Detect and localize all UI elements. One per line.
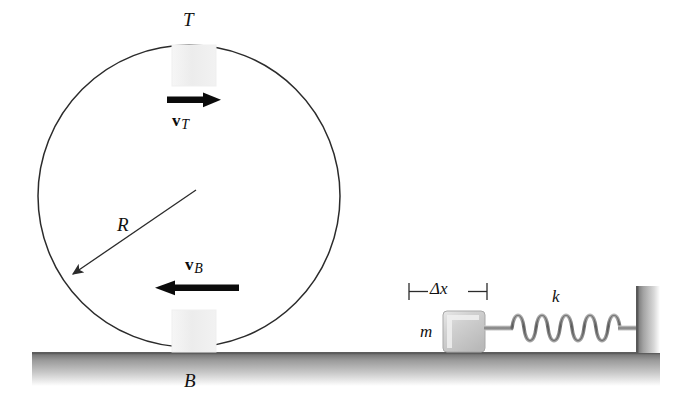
mass-label: m [420, 323, 432, 340]
spring-rod-right [618, 326, 638, 331]
compression-label: Δx [430, 280, 448, 297]
top-velocity-subscript: T [181, 117, 189, 132]
spring-coil-inner [512, 315, 620, 341]
wall [636, 286, 660, 353]
bottom-block [172, 310, 216, 352]
wheel-top-label: T [183, 10, 194, 29]
ground-surface [32, 352, 660, 386]
spring-constant-label: k [552, 288, 560, 305]
spring-coil [512, 315, 620, 341]
top-velocity-arrow [167, 93, 221, 108]
bottom-velocity-symbol: v [185, 255, 194, 274]
wheel-radius-label: R [117, 215, 129, 234]
bottom-velocity-subscript: B [194, 261, 203, 276]
bottom-velocity-arrow [155, 281, 239, 296]
top-block [172, 45, 216, 86]
top-velocity-symbol: v [172, 111, 181, 130]
bottom-velocity-label: vB [185, 256, 202, 273]
delta-x-dimension [409, 283, 487, 300]
top-velocity-label: vT [172, 112, 188, 129]
wheel-circle [38, 45, 340, 347]
physics-figure: T B R vT vB m k Δx [0, 0, 685, 401]
spring-rod-left [484, 326, 513, 331]
figure-canvas [0, 0, 685, 401]
radius-arrow [73, 190, 196, 274]
wheel-bottom-label: B [184, 371, 196, 390]
